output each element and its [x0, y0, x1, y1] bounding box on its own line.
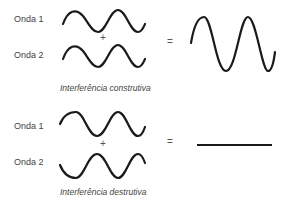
destructive-waves-icon [0, 0, 286, 203]
